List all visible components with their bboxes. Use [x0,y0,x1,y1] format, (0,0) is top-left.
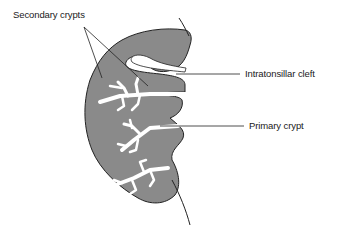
leader-secondary-1 [84,27,102,78]
label-secondary-crypts: Secondary crypts [13,9,85,20]
label-primary-crypt: Primary crypt [249,120,304,131]
label-intratonsillar-cleft: Intratonsillar cleft [245,68,315,79]
